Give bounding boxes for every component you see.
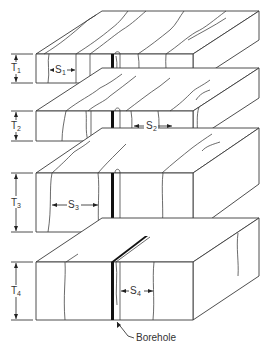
- svg-text:4: 4: [17, 290, 21, 297]
- rock-layers-diagram: T 1 T 2 T 3 T 4 S 1: [0, 0, 271, 349]
- svg-text:1: 1: [62, 69, 66, 76]
- thickness-dimension-t1: T 1: [11, 54, 33, 83]
- svg-text:2: 2: [17, 125, 21, 132]
- borehole-label: Borehole: [136, 332, 176, 343]
- thickness-dimension-t2: T 2: [11, 111, 33, 141]
- svg-text:2: 2: [153, 125, 157, 132]
- layer-3-block: [36, 128, 259, 232]
- thickness-dimension-t4: T 4: [11, 262, 33, 320]
- borehole-callout: Borehole: [117, 322, 176, 343]
- svg-text:3: 3: [17, 202, 21, 209]
- s2-label: S: [146, 120, 153, 131]
- s3-label: S: [68, 199, 75, 210]
- svg-text:4: 4: [137, 290, 141, 297]
- s1-label: S: [55, 64, 62, 75]
- thickness-dimension-t3: T 3: [11, 173, 33, 232]
- layer-4-block: [36, 218, 259, 320]
- svg-text:1: 1: [17, 67, 21, 74]
- svg-text:3: 3: [75, 204, 79, 211]
- s4-label: S: [130, 285, 137, 296]
